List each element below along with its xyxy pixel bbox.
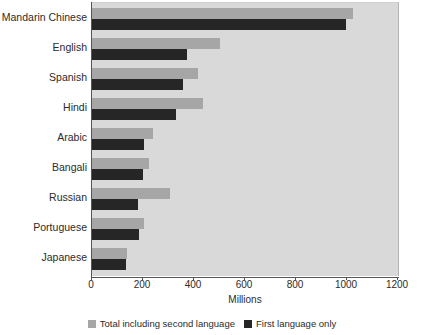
bar-total xyxy=(92,188,170,199)
legend-swatch-icon xyxy=(244,320,252,328)
bar-total xyxy=(92,38,220,49)
bar-first-language xyxy=(92,109,176,120)
legend-label: Total including second language xyxy=(100,318,235,329)
category-row: Mandarin Chinese xyxy=(0,4,424,34)
category-label: Japanese xyxy=(0,251,87,263)
category-row: Bangali xyxy=(0,154,424,184)
bar-total xyxy=(92,68,198,79)
x-tick-label: 1200 xyxy=(367,279,424,290)
legend-label: First language only xyxy=(256,318,336,329)
category-row: Russian xyxy=(0,184,424,214)
bar-total xyxy=(92,8,353,19)
bar-first-language xyxy=(92,259,126,270)
category-row: Arabic xyxy=(0,124,424,154)
bar-first-language xyxy=(92,79,183,90)
category-row: Japanese xyxy=(0,244,424,274)
category-label: Portuguese xyxy=(0,221,87,233)
bar-total xyxy=(92,248,127,259)
chart-legend: Total including second languageFirst lan… xyxy=(0,318,424,329)
category-label: Russian xyxy=(0,191,87,203)
category-label: English xyxy=(0,41,87,53)
legend-item: Total including second language xyxy=(88,318,235,329)
bar-chart: Mandarin ChineseEnglishSpanishHindiArabi… xyxy=(0,0,424,335)
bar-first-language xyxy=(92,169,143,180)
category-label: Arabic xyxy=(0,131,87,143)
category-row: Hindi xyxy=(0,94,424,124)
category-row: English xyxy=(0,34,424,64)
bar-first-language xyxy=(92,49,187,60)
bar-total xyxy=(92,158,149,169)
legend-swatch-icon xyxy=(88,320,96,328)
category-label: Hindi xyxy=(0,101,87,113)
category-row: Portuguese xyxy=(0,214,424,244)
bar-first-language xyxy=(92,139,144,150)
x-axis-title: Millions xyxy=(91,294,399,305)
category-label: Mandarin Chinese xyxy=(0,11,87,23)
bar-total xyxy=(92,218,144,229)
bar-first-language xyxy=(92,199,138,210)
bar-total xyxy=(92,98,203,109)
bar-total xyxy=(92,128,153,139)
category-label: Bangali xyxy=(0,161,87,173)
category-row: Spanish xyxy=(0,64,424,94)
bar-first-language xyxy=(92,19,346,30)
x-axis-line xyxy=(91,277,399,278)
bar-first-language xyxy=(92,229,139,240)
category-label: Spanish xyxy=(0,71,87,83)
legend-item: First language only xyxy=(244,318,336,329)
